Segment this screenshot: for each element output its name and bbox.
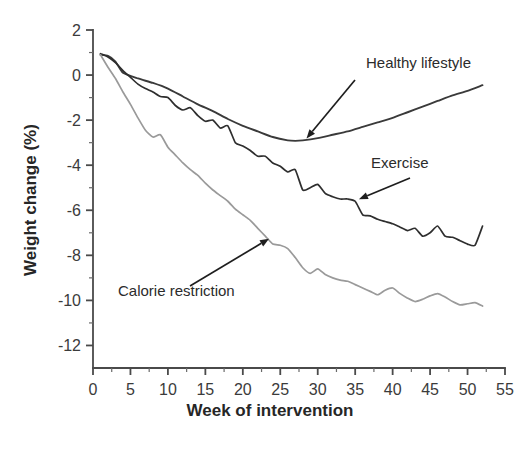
y-tick-label: -10 xyxy=(58,292,81,309)
annotation-label-healthy-lifestyle: Healthy lifestyle xyxy=(366,54,471,71)
weight-change-chart: 20-2-4-6-8-10-12 0510152025303540455055 … xyxy=(0,0,531,449)
y-tick-label: 2 xyxy=(72,22,81,39)
y-tick-label: 0 xyxy=(72,67,81,84)
y-tick-label: -12 xyxy=(58,337,81,354)
x-tick-label: 20 xyxy=(234,381,252,398)
x-tick-label: 45 xyxy=(421,381,439,398)
x-tick-label: 30 xyxy=(309,381,327,398)
y-tick-label: -4 xyxy=(67,157,81,174)
y-tick-label: -2 xyxy=(67,112,81,129)
x-tick-label: 40 xyxy=(384,381,402,398)
x-tick-label: 50 xyxy=(459,381,477,398)
x-tick-label: 0 xyxy=(89,381,98,398)
annotation-label-exercise: Exercise xyxy=(371,154,429,171)
x-tick-label: 35 xyxy=(346,381,364,398)
chart-canvas: 20-2-4-6-8-10-12 0510152025303540455055 … xyxy=(0,0,531,449)
y-tick-label: -6 xyxy=(67,202,81,219)
x-tick-label: 25 xyxy=(271,381,289,398)
x-tick-label: 55 xyxy=(496,381,514,398)
annotation-label-calorie-restriction: Calorie restriction xyxy=(118,282,235,299)
x-tick-label: 5 xyxy=(126,381,135,398)
y-axis-title: Weight change (%) xyxy=(21,124,40,276)
x-axis-title: Week of intervention xyxy=(187,401,354,420)
x-tick-label: 15 xyxy=(196,381,214,398)
x-tick-label: 10 xyxy=(159,381,177,398)
y-tick-label: -8 xyxy=(67,247,81,264)
